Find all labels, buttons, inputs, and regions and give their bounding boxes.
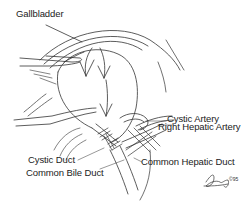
gallbladder-body [58, 50, 137, 142]
label-gallbladder: Gallbladder [16, 9, 64, 19]
label-common-hepatic-duct: Common Hepatic Duct [141, 157, 235, 167]
label-cystic-duct: Cystic Duct [28, 155, 75, 165]
label-right-hepatic-artery: Right Hepatic Artery [158, 122, 240, 132]
anatomy-diagram: Gallbladder Cystic Artery Right Hepatic … [0, 0, 248, 204]
label-common-bile-duct: Common Bile Duct [26, 168, 104, 178]
signature-year: ©95 [229, 176, 238, 182]
grasper-upper [20, 56, 82, 62]
artist-signature [204, 175, 229, 187]
gallbladder-leader-line [46, 25, 82, 42]
cystic-duct-leader-line [78, 148, 104, 160]
surgical-clips [98, 128, 122, 150]
